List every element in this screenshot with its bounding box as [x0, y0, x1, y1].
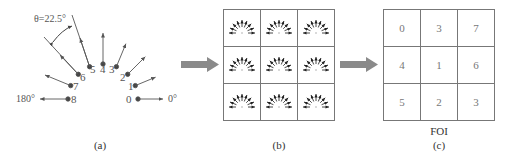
label-180-degrees: 180° — [16, 93, 35, 104]
foi-cell: 4 — [384, 47, 421, 84]
index-8: 8 — [71, 93, 77, 105]
direction-4 — [101, 33, 105, 66]
index-1: 1 — [128, 80, 134, 92]
flow-arrow-b-to-c — [340, 57, 378, 72]
index-7: 7 — [73, 80, 79, 92]
mini-fan-icon — [298, 84, 334, 120]
mini-fan-icon — [261, 10, 297, 46]
index-5: 5 — [90, 63, 96, 75]
theta-label: θ=22.5° — [34, 13, 66, 24]
panel-b-grid — [223, 9, 335, 121]
mini-fan-icon — [224, 10, 260, 46]
mini-fan-cell — [261, 47, 298, 84]
caption-b: (b) — [259, 139, 299, 151]
direction-7 — [45, 75, 73, 88]
mini-fan-cell — [224, 84, 261, 121]
mini-fan-cell — [224, 10, 261, 47]
mini-fan-cell — [298, 10, 335, 47]
foi-cell: 7 — [458, 10, 495, 47]
direction-3 — [114, 44, 126, 69]
direction-1 — [133, 77, 156, 88]
index-6: 6 — [80, 71, 86, 83]
index-4: 4 — [100, 63, 106, 75]
foi-cell: 3 — [421, 10, 458, 47]
foi-cell: 5 — [384, 84, 421, 121]
index-3: 3 — [109, 63, 115, 75]
mini-fan-cell — [224, 47, 261, 84]
mini-fan-icon — [261, 84, 297, 120]
foi-title: FOI — [419, 125, 459, 137]
flow-arrow-a-to-b — [181, 57, 219, 72]
index-0: 0 — [126, 93, 132, 105]
label-0-degrees: 0° — [168, 93, 177, 104]
mini-fan-cell — [261, 84, 298, 121]
foi-cell: 6 — [458, 47, 495, 84]
foi-cell: 3 — [458, 84, 495, 121]
foi-cell: 0 — [384, 10, 421, 47]
mini-fan-icon — [224, 84, 260, 120]
direction-0 — [136, 97, 163, 101]
mini-fan-cell — [298, 47, 335, 84]
direction-6 — [44, 37, 81, 77]
index-2: 2 — [120, 71, 126, 83]
mini-fan-icon — [298, 47, 334, 83]
mini-fan-cell — [261, 10, 298, 47]
direction-2 — [126, 57, 146, 77]
foi-cell: 2 — [421, 84, 458, 121]
mini-fan-icon — [224, 47, 260, 83]
caption-a: (a) — [80, 139, 120, 151]
mini-fan-cell — [298, 84, 335, 121]
theta-arc — [53, 26, 72, 42]
foi-cell: 1 — [421, 47, 458, 84]
panel-c-grid: 0 3 7 4 1 6 5 2 3 — [383, 9, 495, 121]
mini-fan-icon — [298, 10, 334, 46]
direction-fan — [40, 15, 163, 101]
direction-8 — [40, 97, 70, 101]
mini-fan-icon — [261, 47, 297, 83]
caption-c: (c) — [419, 139, 459, 151]
direction-5 — [72, 15, 92, 69]
